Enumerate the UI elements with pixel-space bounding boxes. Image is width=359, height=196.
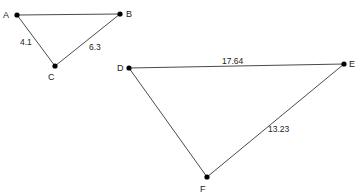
vertex-d [126,65,131,70]
edge-fe [207,64,344,177]
edge-cb [55,14,120,66]
edge-df [129,68,207,177]
edge-ab [17,14,120,15]
diagram-canvas: A B C 4.1 6.3 D E F 17.64 13.23 [0,0,359,196]
edge-label-cb: 6.3 [89,42,101,52]
vertex-e [341,61,346,66]
vertex-label-e: E [349,59,355,69]
vertex-c [52,63,57,68]
vertex-label-b: B [126,9,132,19]
triangle-def: D E F 17.64 13.23 [117,56,355,194]
vertex-label-d: D [117,63,124,73]
vertex-a [14,12,19,17]
edge-label-de: 17.64 [222,56,244,66]
edge-label-ac: 4.1 [20,37,32,47]
triangle-abc: A B C 4.1 6.3 [3,9,132,82]
vertex-label-f: F [200,184,206,194]
vertex-label-c: C [48,72,55,82]
vertex-label-a: A [3,10,9,20]
vertex-f [204,174,209,179]
vertex-b [117,11,122,16]
edge-label-fe: 13.23 [268,124,290,134]
